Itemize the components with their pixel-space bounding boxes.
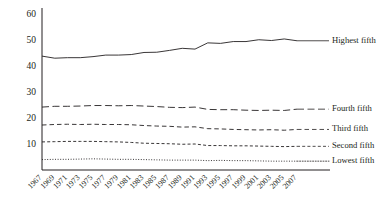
chart-canvas: 102030405060 196719691971197319751977197…: [0, 0, 390, 212]
legend-label: Second fifth: [332, 140, 375, 150]
y-tick-label: 60: [27, 9, 37, 19]
legend-label: Third fifth: [332, 123, 369, 133]
legend-label: Highest fifth: [332, 35, 376, 45]
legend-label: Fourth fifth: [332, 103, 373, 113]
y-tick-label: 20: [27, 113, 37, 123]
y-tick-label: 50: [27, 35, 37, 45]
y-axis: 102030405060: [27, 8, 43, 170]
series-line: [42, 106, 297, 111]
y-tick-label: 10: [27, 139, 37, 149]
y-tick-label: 30: [27, 87, 37, 97]
legend-label: Lowest fifth: [332, 155, 375, 165]
series-line: [42, 124, 297, 130]
series-line: [42, 39, 297, 58]
series-line: [42, 141, 297, 146]
x-tick-label: 2007: [281, 173, 299, 191]
series-lines: [42, 39, 297, 161]
series-line: [42, 159, 297, 161]
y-tick-label: 40: [27, 61, 37, 71]
chart-legend: Highest fifthFourth fifthThird fifthSeco…: [297, 35, 376, 165]
line-chart: 102030405060 196719691971197319751977197…: [0, 0, 390, 212]
x-axis: 1967196919711973197519771979198119831985…: [26, 170, 330, 191]
